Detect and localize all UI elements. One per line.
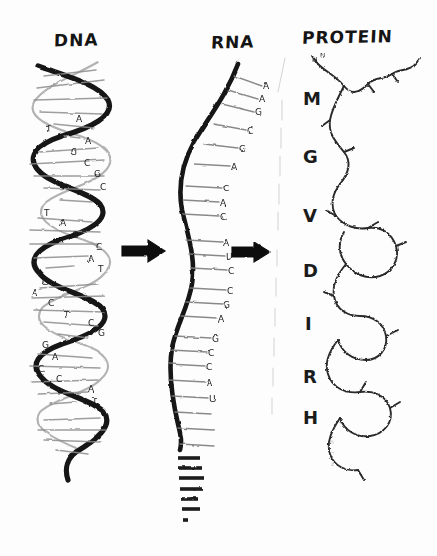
- rna-base-label: A: [206, 378, 213, 388]
- protein-sidechain: [358, 470, 364, 480]
- dna-base-label: C: [100, 182, 106, 192]
- amino-acid-label: D: [303, 260, 318, 281]
- dna-base-label: A: [32, 288, 39, 298]
- rna-base-label: C: [228, 266, 234, 276]
- dna-base-label: C: [38, 364, 44, 374]
- protein-sidechain: [360, 382, 366, 392]
- rna-strand-group: A A G C G A C A C A U C C G A G C C A U: [169, 64, 270, 520]
- rna-base-label: G: [239, 144, 246, 154]
- diagram-canvas: DNA RNA PROTEIN: [0, 0, 437, 556]
- dna-base-label: A: [88, 254, 95, 264]
- dna-base-label: C: [84, 158, 90, 168]
- faint-guide-line: [272, 58, 285, 414]
- dna-base-label: G: [72, 230, 79, 240]
- dna-base-label: T: [91, 396, 98, 406]
- rna-base-label: A: [263, 81, 270, 91]
- dna-base-label: G: [98, 328, 105, 338]
- faint-mark: z: [331, 460, 334, 467]
- protein-sidechain: [390, 402, 400, 408]
- amino-acid-label: I: [305, 313, 312, 334]
- dna-base-label: G: [42, 277, 49, 287]
- protein-backbone-segment: [334, 264, 387, 360]
- dna-base-label: A: [85, 136, 92, 146]
- dna-base-label: T: [44, 124, 51, 134]
- rna-base-label: A: [218, 314, 225, 324]
- dna-base-label: T: [97, 264, 104, 274]
- protein-sidechain: [396, 242, 406, 246]
- diagram-drawing: A T A G C G C T A G C A T G A C T C G G: [0, 0, 437, 556]
- amino-acid-label: R: [303, 366, 317, 387]
- arrow-dna-to-rna: [122, 240, 165, 262]
- rna-base-label: G: [212, 334, 219, 344]
- dna-base-label: G: [42, 340, 49, 350]
- dna-base-label: T: [63, 310, 70, 320]
- dna-base-label: A: [60, 218, 67, 228]
- dna-base-label: G: [70, 147, 77, 157]
- dna-helix: A T A G C G C T A G C A T G A C T C G G: [30, 62, 110, 480]
- dna-base-letters: A T A G C G C T A G C A T G A C T C G G: [32, 114, 106, 406]
- dna-base-label: A: [76, 114, 83, 124]
- rna-base-label: C: [227, 286, 233, 296]
- rna-base-label: A: [220, 198, 227, 208]
- amino-acid-label: G: [303, 146, 318, 167]
- protein-sidechain: [324, 292, 334, 296]
- rna-base-label: A: [259, 94, 266, 104]
- protein-backbone-segment: [336, 216, 397, 277]
- amino-acid-label: H: [303, 407, 318, 428]
- protein-sidechain: [368, 84, 374, 92]
- rna-base-label: U: [209, 394, 216, 404]
- protein-terminus-label: N: [320, 52, 325, 60]
- rna-base-label: G: [255, 107, 262, 117]
- rna-base-label: A: [223, 238, 230, 248]
- protein-sidechain: [344, 148, 354, 152]
- dna-base-label: T: [43, 208, 50, 218]
- amino-acid-label: V: [303, 205, 317, 226]
- protein-terminus-marks: H N: [312, 52, 325, 64]
- rna-base-label: C: [206, 362, 212, 372]
- rna-base-label: G: [223, 300, 230, 310]
- dna-base-label: A: [52, 352, 59, 362]
- dna-base-label: C: [56, 374, 62, 384]
- protein-sidechain: [414, 58, 420, 66]
- rna-base-label: C: [223, 183, 229, 193]
- protein-sidechain: [392, 74, 398, 82]
- rna-base-label: C: [220, 212, 226, 222]
- protein-backbone-segment: [318, 64, 416, 92]
- dna-base-label: C: [88, 318, 94, 328]
- amino-acid-label: M: [303, 88, 321, 109]
- protein-amino-acid-letters: M G V D I R H: [303, 88, 321, 428]
- protein-sidechain: [386, 330, 398, 336]
- dna-base-label: G: [94, 169, 101, 179]
- dna-base-label: C: [48, 298, 54, 308]
- rna-base-label: C: [208, 348, 214, 358]
- rna-base-letters: A A G C G A C A C A U C C G A G C C A U: [206, 81, 270, 404]
- rna-base-label: A: [231, 162, 238, 172]
- rna-tail-rungs: [178, 458, 204, 520]
- dna-base-label: A: [88, 384, 95, 394]
- arrow-rna-to-protein: [232, 242, 270, 262]
- protein-terminus-label: H: [312, 56, 317, 64]
- faint-mark: ~: [330, 448, 335, 455]
- dna-base-label: C: [96, 242, 102, 252]
- faint-mark: h: [330, 438, 334, 445]
- rna-base-label: C: [247, 126, 253, 136]
- protein-chain: H N: [312, 52, 420, 480]
